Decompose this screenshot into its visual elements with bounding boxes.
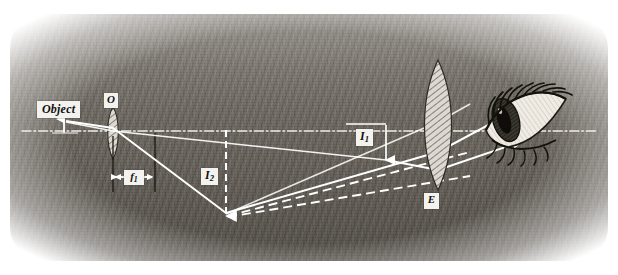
eyepiece-lens	[425, 60, 452, 190]
real-image-label: I2	[201, 168, 218, 185]
objective-lens-label: O	[104, 93, 118, 108]
virtual-image-subscript: 1	[365, 134, 369, 144]
focal-length-label: f1	[124, 170, 144, 185]
observer-eye	[486, 83, 572, 166]
object-label: Object	[37, 101, 80, 118]
real-image-subscript: 2	[210, 173, 214, 183]
virtual-image-label: I1	[356, 129, 373, 146]
focal-length-subscript: 1	[134, 175, 138, 184]
ray-diagram-layer	[0, 0, 618, 275]
eyepiece-lens-label: E	[424, 193, 439, 209]
optics-diagram-figure: Object O f1 I2 I1 E	[0, 0, 618, 275]
